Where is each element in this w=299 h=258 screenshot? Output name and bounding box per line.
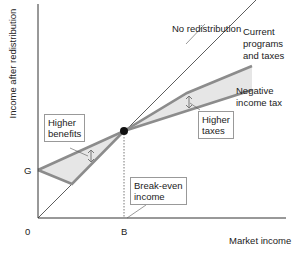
break-even-line1: Break-even — [134, 180, 183, 191]
current-line2: programs — [243, 38, 284, 50]
higher-taxes-callout: Higher taxes — [198, 111, 234, 139]
taxes-line2: taxes — [202, 125, 230, 136]
no-redistribution-label: No redistribution — [172, 23, 241, 34]
benefits-line2: benefits — [48, 128, 81, 139]
break-even-point — [120, 127, 128, 135]
taxes-line1: Higher — [202, 114, 230, 125]
break-even-leader — [127, 205, 146, 218]
b-tick-label: B — [121, 226, 127, 237]
higher-benefits-callout: Higher benefits — [44, 114, 85, 142]
y-axis-label: Income after redistribution — [7, 0, 18, 134]
x-axis-label: Market income — [229, 235, 291, 246]
benefits-line1: Higher — [48, 117, 81, 128]
origin-label: 0 — [25, 226, 30, 237]
current-line1: Current — [243, 26, 284, 38]
current-programs-label: Current programs and taxes — [243, 26, 284, 62]
nit-line1: Negative — [236, 85, 282, 97]
break-even-callout: Break-even income — [130, 177, 187, 205]
negative-income-tax-label: Negative income tax — [236, 85, 282, 109]
negative-income-tax-diagram: Income after redistribution No redistrib… — [0, 0, 299, 258]
current-line3: and taxes — [243, 50, 284, 62]
break-even-line2: income — [134, 191, 183, 202]
g-tick-label: G — [24, 165, 31, 176]
nit-line2: income tax — [236, 97, 282, 109]
